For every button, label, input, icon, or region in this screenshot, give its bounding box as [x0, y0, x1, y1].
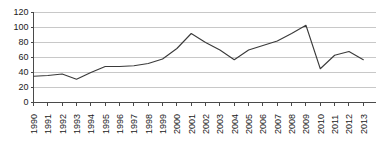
line-chart: 020406080100120 199019911992199319941995…: [0, 0, 383, 144]
gridlines: [34, 13, 376, 88]
chart-plot-area: [0, 0, 383, 144]
data-series-line: [34, 25, 364, 79]
